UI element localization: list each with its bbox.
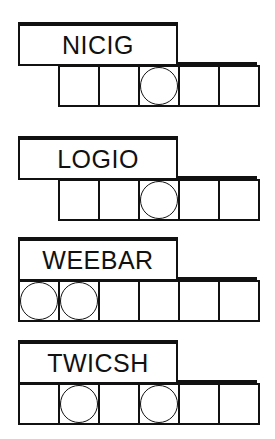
letter-box[interactable] xyxy=(98,179,140,221)
letter-box[interactable] xyxy=(178,280,220,322)
letter-box[interactable] xyxy=(218,65,260,107)
answer-boxes xyxy=(18,383,260,423)
letter-box[interactable] xyxy=(218,383,260,425)
letter-box[interactable] xyxy=(138,383,180,425)
scrambled-word: TWICSH xyxy=(18,340,178,384)
scrambled-word: WEEBAR xyxy=(18,237,178,281)
letter-box[interactable] xyxy=(98,280,140,322)
letter-box[interactable] xyxy=(58,280,100,322)
letter-box[interactable] xyxy=(58,383,100,425)
letter-box[interactable] xyxy=(98,383,140,425)
answer-boxes xyxy=(18,280,260,320)
circle-marker-icon xyxy=(140,385,178,423)
letter-box[interactable] xyxy=(138,65,180,107)
circle-marker-icon xyxy=(140,181,178,219)
circle-marker-icon xyxy=(60,385,98,423)
circle-marker-icon xyxy=(140,67,178,105)
letter-box[interactable] xyxy=(178,179,220,221)
answer-boxes xyxy=(58,65,260,105)
letter-box[interactable] xyxy=(178,383,220,425)
scrambled-word: LOGIO xyxy=(18,136,178,180)
letter-box[interactable] xyxy=(218,280,260,322)
circle-marker-icon xyxy=(20,282,58,320)
scrambled-word: NICIG xyxy=(18,22,178,66)
circle-marker-icon xyxy=(60,282,98,320)
letter-box[interactable] xyxy=(18,280,60,322)
letter-box[interactable] xyxy=(178,65,220,107)
letter-box[interactable] xyxy=(218,179,260,221)
answer-boxes xyxy=(58,179,260,219)
letter-box[interactable] xyxy=(58,65,100,107)
letter-box[interactable] xyxy=(138,179,180,221)
letter-box[interactable] xyxy=(138,280,180,322)
letter-box[interactable] xyxy=(58,179,100,221)
letter-box[interactable] xyxy=(18,383,60,425)
letter-box[interactable] xyxy=(98,65,140,107)
